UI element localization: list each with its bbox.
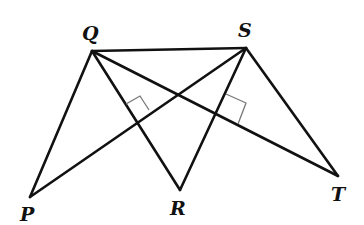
point-label-Q: Q xyxy=(82,22,99,44)
geometry-diagram: Q S P R T xyxy=(0,0,364,225)
point-label-P: P xyxy=(19,203,35,225)
segment-QR xyxy=(92,51,180,190)
point-label-S: S xyxy=(238,19,252,41)
point-label-T: T xyxy=(331,183,347,205)
segment-ST xyxy=(246,48,338,176)
point-label-R: R xyxy=(169,197,186,219)
segment-QS xyxy=(92,48,246,51)
